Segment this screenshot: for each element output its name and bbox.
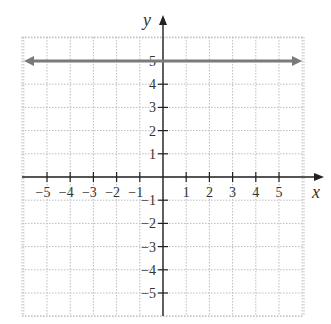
x-tick-label: −2 xyxy=(105,185,120,200)
y-tick-label: 3 xyxy=(149,100,156,115)
y-tick-label: −4 xyxy=(141,263,156,278)
x-axis-label: x xyxy=(311,182,320,202)
x-tick-label: 4 xyxy=(252,185,259,200)
x-tick-label: 2 xyxy=(206,185,213,200)
y-tick-label: −1 xyxy=(141,193,156,208)
x-tick-label: −5 xyxy=(36,185,51,200)
coordinate-plane: −5−4−3−2−112345−5−4−3−2−112345 x y xyxy=(0,0,331,324)
x-tick-label: 3 xyxy=(229,185,236,200)
y-tick-label: −2 xyxy=(141,216,156,231)
x-axis-arrow-icon xyxy=(314,173,324,181)
y-tick-label: 2 xyxy=(149,124,156,139)
y-tick-label: 4 xyxy=(149,77,156,92)
x-tick-label: 5 xyxy=(276,185,283,200)
y-tick-label: 1 xyxy=(149,147,156,162)
x-tick-label: −4 xyxy=(59,185,74,200)
x-tick-label: 1 xyxy=(183,185,190,200)
y-tick-label: −5 xyxy=(141,286,156,301)
y-tick-label: −3 xyxy=(141,240,156,255)
y-axis-arrow-icon xyxy=(159,15,167,25)
left-arrow-icon xyxy=(24,56,34,66)
y-axis-label: y xyxy=(141,10,151,30)
right-arrow-icon xyxy=(292,56,302,66)
x-tick-label: −3 xyxy=(82,185,97,200)
